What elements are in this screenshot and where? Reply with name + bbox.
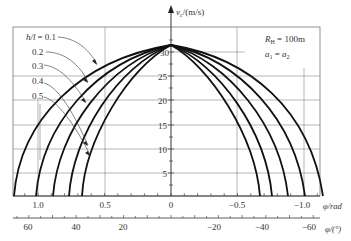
- y-tick-20: 20: [158, 96, 168, 106]
- x-axis-rad: [13, 193, 320, 196]
- x-deg-tick-20: 20: [119, 222, 129, 232]
- x-rad-tick-1.0: 1.0: [32, 200, 44, 210]
- y-tick-15: 15: [158, 121, 168, 131]
- y-tick-5: 5: [163, 169, 168, 179]
- x-rad-axis-label: φ/rad: [323, 201, 343, 211]
- x-deg-tick-neg40: −40: [255, 222, 270, 232]
- x-rad-tick-0: 0: [169, 200, 174, 210]
- annotation-a-equal: a1 = a2: [265, 49, 290, 60]
- y-tick-10: 10: [158, 145, 168, 155]
- x-rad-tick-neg1.0: −1.0: [294, 200, 311, 210]
- x-deg-tick-40: 40: [72, 222, 82, 232]
- legend-label-0.2: 0.2: [32, 47, 43, 57]
- x-axis-deg: [13, 215, 320, 218]
- y-axis-label: vc/(m/s): [176, 7, 204, 18]
- x-deg-tick-neg20: −20: [207, 222, 222, 232]
- chart: 30 25 20 15 10 5 vc/(m/s) 1.0 0.5 0 −0.5…: [0, 0, 351, 241]
- x-deg-tick-60: 60: [24, 222, 34, 232]
- annotation-radius: RH = 100m: [264, 34, 305, 45]
- x-rad-tick-neg0.5: −0.5: [229, 200, 246, 210]
- x-rad-tick-0.5: 0.5: [99, 200, 111, 210]
- x-deg-axis-label: φ/(°): [325, 224, 341, 234]
- y-axis: [168, 5, 174, 196]
- curves: [14, 45, 323, 196]
- curve-h-l-0.2: [36, 45, 305, 196]
- legend-label-0.4: 0.4: [32, 76, 44, 86]
- x-deg-tick-neg60: −60: [302, 222, 317, 232]
- legend-label-0.3: 0.3: [32, 61, 44, 71]
- curve-h-l-0.3: [53, 45, 288, 196]
- y-tick-25: 25: [158, 72, 168, 82]
- curve-h-l-0.4: [69, 45, 272, 196]
- legend-label-0.1: h/l= 0.1: [26, 32, 56, 42]
- legend-label-0.5: 0.5: [32, 91, 44, 101]
